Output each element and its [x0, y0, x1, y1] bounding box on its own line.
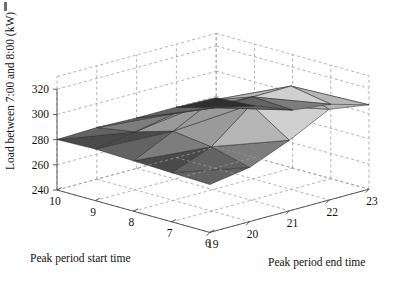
x-tick-label: 9: [90, 206, 96, 218]
y-axis-title: Peak period end time: [268, 256, 365, 269]
z-tick-label: 320: [32, 83, 50, 95]
x-tick-label: 8: [129, 216, 135, 228]
surface-plot-3d: 3203002802602401098761920212223 Peak per…: [0, 0, 411, 292]
x-tick-label: 7: [167, 227, 173, 239]
y-tick-label: 20: [247, 228, 259, 240]
y-tick-label: 23: [366, 195, 378, 207]
z-axis-title: Load between 7:00 and 8:00 (kW): [4, 12, 17, 170]
y-tick-label: 22: [326, 206, 338, 218]
y-tick-label: 19: [207, 238, 219, 250]
z-tick-label: 260: [32, 159, 50, 171]
x-tick-label: 10: [49, 195, 61, 207]
surface-facets: [57, 86, 369, 184]
z-tick-label: 280: [32, 134, 50, 146]
x-axis-title: Peak period start time: [30, 252, 131, 265]
z-tick-label: 300: [32, 108, 50, 120]
y-tick-label: 21: [287, 217, 299, 229]
figure-container: 3203002802602401098761920212223 Peak per…: [0, 0, 411, 292]
z-tick-label: 240: [32, 184, 50, 196]
